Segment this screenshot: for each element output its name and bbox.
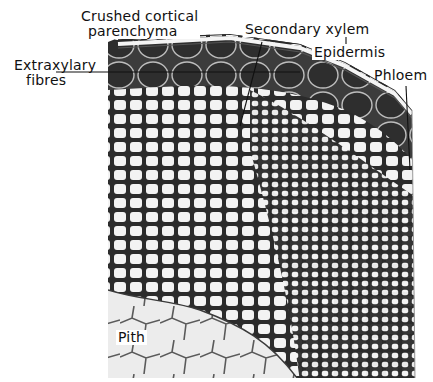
label-phloem: Phloem: [374, 68, 427, 83]
label-crushed-cortical-parenchyma: Crushed cortical parenchyma: [79, 9, 200, 39]
micrograph-figure: Crushed cortical parenchyma Extraxylary …: [0, 0, 433, 382]
label-extraxylary-fibres: Extraxylary fibres: [14, 58, 96, 88]
label-secondary-xylem: Secondary xylem: [243, 22, 371, 37]
label-line-2: parenchyma: [81, 24, 198, 39]
label-line-1: Extraxylary: [14, 58, 96, 73]
label-line-2: fibres: [14, 73, 96, 88]
label-line-1: Crushed cortical: [81, 9, 198, 24]
label-epidermis: Epidermis: [312, 45, 387, 60]
label-pith: Pith: [116, 330, 147, 345]
